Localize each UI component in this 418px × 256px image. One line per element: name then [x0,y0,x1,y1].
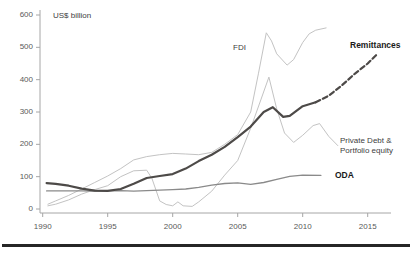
remittances-flows-chart: US$ billion 0100200300400500600 19901995… [0,0,418,256]
x-tick-2010: 2010 [286,222,320,232]
y-tick-100: 100 [3,172,33,182]
x-tick-2000: 2000 [156,222,190,232]
private-debt-label-line1: Private Debt & [340,136,393,146]
bottom-separator-rule [2,244,410,247]
y-tick-300: 300 [3,107,33,117]
series-remittances [47,102,316,191]
y-tick-600: 600 [3,10,33,20]
fdi-series-label: FDI [233,43,246,53]
remittances-series-label: Remittances [350,40,401,50]
y-tick-0: 0 [3,204,33,214]
y-tick-200: 200 [3,139,33,149]
oda-series-label: ODA [335,170,354,180]
x-tick-2005: 2005 [221,222,255,232]
chart-canvas [0,0,418,256]
private-debt-label-line2: Portfolio equity [340,146,393,156]
series-private-debt-portfolio-equity [48,77,338,206]
y-tick-400: 400 [3,75,33,85]
y-axis-title: US$ billion [53,11,91,20]
y-tick-500: 500 [3,42,33,52]
x-tick-1995: 1995 [91,222,125,232]
x-tick-2015: 2015 [351,222,385,232]
private-debt-series-label: Private Debt & Portfolio equity [340,136,393,156]
x-tick-1990: 1990 [26,222,60,232]
series-remittances-projection- [316,54,377,102]
